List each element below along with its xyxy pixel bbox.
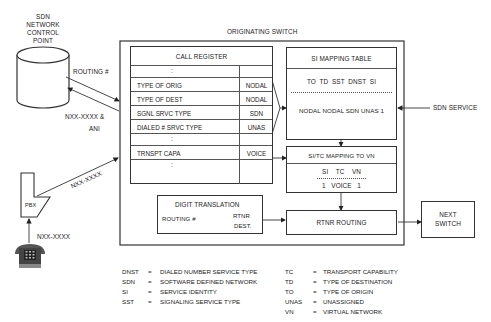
si-mapping-title: SI MAPPING TABLE <box>287 56 396 62</box>
next-switch-label: NEXT <box>422 212 474 218</box>
call-register-title: CALL REGISTER <box>131 54 272 60</box>
legend-item: UNAS=UNASSIGNED <box>285 298 364 305</box>
table-row: DIALED # SRVC TYPEUNAS <box>131 119 272 134</box>
table-row: TYPE OF ORIGNODAL <box>131 77 272 92</box>
digit-translation-input: ROUTING # <box>162 216 196 222</box>
legend-item: VN=VIRTUAL NETWORK <box>285 308 382 315</box>
sdn-service-label: SDN SERVICE <box>433 105 477 111</box>
si-tc-mapping-table: SI/TC MAPPING TO VN SI TC VN 1 VOICE 1 <box>286 146 397 193</box>
si-tc-title: SI/TC MAPPING TO VN <box>287 153 396 159</box>
si-tc-row: 1 VOICE 1 <box>287 183 396 189</box>
next-switch-box: NEXT SWITCH <box>421 201 475 238</box>
ncp-label-line: CONTROL <box>20 29 66 37</box>
legend-item: TD=TYPE OF DESTINATION <box>285 278 392 285</box>
ncp-label-line: SDN <box>20 13 66 21</box>
table-row: : <box>131 159 272 184</box>
next-switch-label: SWITCH <box>422 221 474 227</box>
switch-title: ORIGINATING SWITCH <box>227 29 298 35</box>
rtnr-routing-label: RTNR ROUTING <box>287 220 396 226</box>
telephone-icon <box>15 244 45 268</box>
table-row: TRNSPT CAPAVOICE <box>131 145 272 160</box>
pbx-label: PBX <box>25 203 36 209</box>
legend-item: SI=SERVICE IDENTITY <box>122 288 217 295</box>
table-row: TYPE OF DESTNODAL <box>131 91 272 106</box>
digit-translation-box: DIGIT TRANSLATION ROUTING # RTNR DEST. <box>157 195 263 234</box>
pbx-icon <box>21 173 50 217</box>
si-mapping-header: TO TD SST DNST SI <box>287 79 396 85</box>
phone-to-pbx-label: NXX-XXXX <box>37 234 70 240</box>
digit-translation-title: DIGIT TRANSLATION <box>175 202 240 208</box>
ani-label: ANI <box>89 126 100 132</box>
digit-translation-output-dest: DEST. <box>234 223 252 229</box>
ncp-label: SDN NETWORK CONTROL POINT <box>20 13 66 45</box>
database-icon <box>17 47 69 108</box>
routing-label: ROUTING # <box>73 69 109 75</box>
ncp-label-line: NETWORK <box>20 21 66 29</box>
si-tc-header: SI TC VN <box>287 169 396 175</box>
nxx-ani-label: NXX-XXXX & <box>65 114 104 120</box>
legend-item: SDN=SOFTWARE DEFINED NETWORK <box>122 278 257 285</box>
table-row: SGNL SRVC TYPESDN <box>131 105 272 120</box>
ncp-label-line: POINT <box>20 37 66 45</box>
si-mapping-table: SI MAPPING TABLE TO TD SST DNST SI NODAL… <box>286 47 397 140</box>
si-mapping-row: NODAL NODAL SDN UNAS 1 <box>287 108 396 114</box>
call-register-table: CALL REGISTER : TYPE OF ORIGNODAL TYPE O… <box>130 46 273 184</box>
rtnr-routing-box: RTNR ROUTING <box>286 210 397 235</box>
digit-translation-output: RTNR <box>233 213 250 219</box>
legend-item: TC=TRANSPORT CAPABILITY <box>285 268 398 275</box>
legend-item: SST=SIGNALING SERVICE TYPE <box>122 298 240 305</box>
legend-item: DNST=DIALED NUMBER SERVICE TYPE <box>122 268 257 275</box>
legend-item: TO=TYPE OF ORIGIN <box>285 288 373 295</box>
